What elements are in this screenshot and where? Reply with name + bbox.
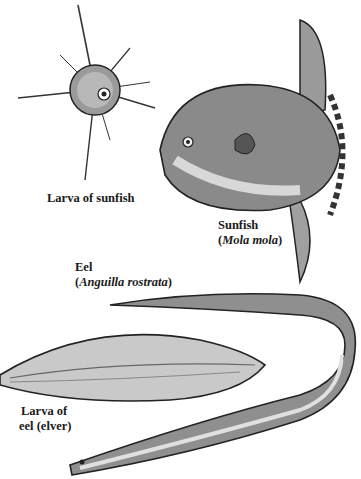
eel-scientific-name: Anguilla rostrata [79, 275, 168, 289]
label-larva-of-eel-line1: Larva of [21, 404, 67, 419]
label-eel-scientific: (Anguilla rostrata) [75, 275, 172, 290]
eel-larva-drawing [0, 335, 265, 401]
label-sunfish-scientific: (Mola mola) [218, 233, 282, 248]
label-larva-of-sunfish: Larva of sunfish [47, 191, 135, 206]
sunfish-scientific-name: Mola mola [222, 233, 278, 247]
label-sunfish: Sunfish [218, 218, 258, 233]
label-larva-of-eel-line2: eel (elver) [19, 419, 71, 434]
sunfish-larva-drawing [18, 5, 155, 180]
label-eel: Eel [75, 260, 92, 275]
